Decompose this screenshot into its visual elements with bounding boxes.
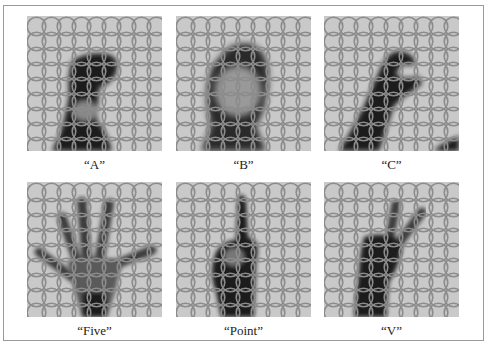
ring-grid-overlay xyxy=(176,16,311,151)
ring-grid-overlay xyxy=(324,16,459,151)
ring-grid-overlay xyxy=(27,182,162,317)
ring-grid-overlay xyxy=(27,16,162,151)
panel-five xyxy=(27,182,162,317)
panel-a-label: “A” xyxy=(27,158,162,172)
panel-point xyxy=(176,182,311,317)
figure-frame: “A” “B” “C” xyxy=(3,5,484,341)
panel-a xyxy=(27,16,162,151)
panel-v-label: “V” xyxy=(324,324,459,338)
ring-grid-overlay xyxy=(324,182,459,317)
panel-point-label: “Point” xyxy=(176,324,311,338)
panel-b xyxy=(176,16,311,151)
panel-b-label: “B” xyxy=(176,158,311,172)
ring-grid-overlay xyxy=(176,182,311,317)
panel-v xyxy=(324,182,459,317)
panel-c xyxy=(324,16,459,151)
panel-five-label: “Five” xyxy=(27,324,162,338)
panel-c-label: “C” xyxy=(324,158,459,172)
